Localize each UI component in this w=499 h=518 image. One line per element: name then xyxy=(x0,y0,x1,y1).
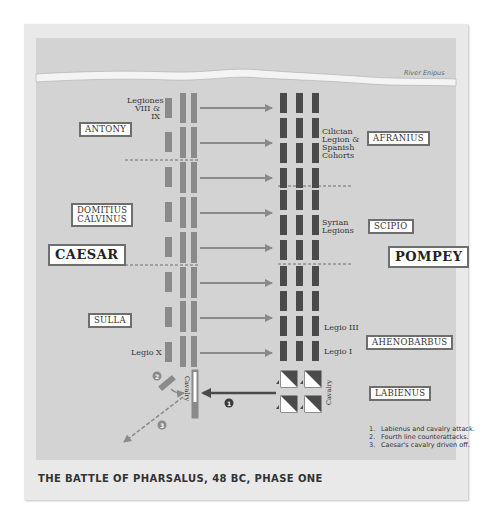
river-label: River Enipus xyxy=(404,69,445,77)
label-legio-x: Legio X xyxy=(131,349,162,357)
commander-domitius-calvinus: DOMITIUS CALVINUS xyxy=(71,203,133,227)
legend-item: 1.Labienus and cavalry attack. xyxy=(369,425,475,433)
label-syrian-legions: Syrian Legions xyxy=(322,219,354,235)
caesar-legion-columns xyxy=(180,93,197,367)
legend-item: 3.Caesar's cavalry driven off. xyxy=(369,441,475,449)
advance-arrows xyxy=(200,108,272,353)
legend-text: Labienus and cavalry attack. xyxy=(381,425,475,433)
pompey-cavalry-blocks xyxy=(276,371,321,412)
pompey-cavalry-label: Cavalry xyxy=(325,379,333,405)
commander-scipio: SCIPIO xyxy=(368,219,414,234)
legend-num: 3. xyxy=(369,441,381,449)
commander-sulla: SULLA xyxy=(88,313,132,328)
label-legiones-line2: VIII & IX xyxy=(127,105,160,121)
legend-text: Caesar's cavalry driven off. xyxy=(381,441,470,449)
map-title: THE BATTLE OF PHARSALUS, 48 BC, PHASE ON… xyxy=(38,473,323,484)
commander-antony: ANTONY xyxy=(79,122,132,137)
side-pompey: POMPEY xyxy=(388,246,469,268)
pompey-legion-columns xyxy=(280,93,319,361)
legend: 1.Labienus and cavalry attack. 2.Fourth … xyxy=(369,425,475,449)
commander-ahenobarbus: AHENOBARBUS xyxy=(366,335,453,350)
caesar-cavalry-label: Cavalry xyxy=(183,376,191,402)
marker-2-label: 2 xyxy=(155,373,159,380)
commander-domitius-line2: CALVINUS xyxy=(77,215,127,224)
label-syrian-line2: Legions xyxy=(322,227,354,235)
label-legio-i: Legio I xyxy=(324,348,352,356)
legend-text: Fourth line counterattacks. xyxy=(381,433,469,441)
marker-1-label: 1 xyxy=(227,400,231,407)
marker-3-label: 3 xyxy=(160,422,164,429)
label-cilician-spanish: Cilician Legion & Spanish Cohorts xyxy=(322,128,359,160)
caesar-reserve-blocks xyxy=(165,98,172,362)
legend-item: 2.Fourth line counterattacks. xyxy=(369,433,475,441)
river-enipus xyxy=(36,69,456,86)
label-cilician-line4: Cohorts xyxy=(322,152,359,160)
side-caesar: CAESAR xyxy=(48,244,126,266)
commander-afranius: AFRANIUS xyxy=(367,131,430,146)
label-legio-iii: Legio III xyxy=(324,324,359,332)
label-legiones-viii-ix: Legiones VIII & IX xyxy=(127,97,160,121)
cavalry-retreat-arrow xyxy=(124,397,183,442)
legend-num: 1. xyxy=(369,425,381,433)
fourth-line-arrow xyxy=(171,389,184,393)
legend-num: 2. xyxy=(369,433,381,441)
commander-labienus: LABIENUS xyxy=(369,386,431,401)
